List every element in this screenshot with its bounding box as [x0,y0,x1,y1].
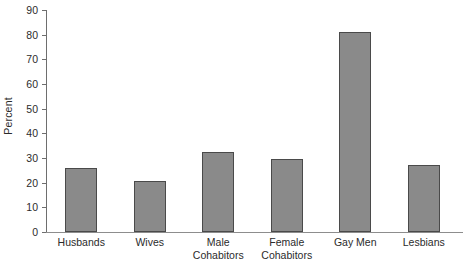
bar-slot [116,10,185,232]
y-axis-tick-label: 40 [26,128,38,139]
y-axis-tick-mark [42,84,46,85]
bar-series [47,10,458,232]
bar-chart-figure: Percent 0102030405060708090 HusbandsWive… [0,0,463,270]
x-axis-tick-label-line: Cohabitors [184,249,253,262]
bar [134,181,166,232]
x-axis-tick-label-line: Cohabitors [253,249,322,262]
y-axis-tick-label: 50 [26,103,38,114]
x-axis-tick-label: MaleCohabitors [184,236,253,270]
y-axis-tick-labels: 0102030405060708090 [16,0,42,232]
x-axis-tick-label: FemaleCohabitors [253,236,322,270]
y-axis-tick-mark [42,133,46,134]
y-axis-tick-label: 20 [26,177,38,188]
y-axis-tick-label: 70 [26,54,38,65]
x-axis-tick-label: Husbands [47,236,116,270]
y-axis-tick-label: 60 [26,79,38,90]
x-axis-tick-label-line: Female [269,236,304,248]
y-axis-tick-label: 30 [26,153,38,164]
y-axis-tick-mark [42,207,46,208]
bar [339,32,371,232]
bar [271,159,303,232]
x-axis-tick-label-line: Male [207,236,230,248]
y-axis-label-text: Percent [2,97,14,135]
y-axis-tick-mark [42,109,46,110]
y-axis-tick-label: 90 [26,5,38,16]
x-axis-tick-label: Gay Men [321,236,390,270]
y-axis-tick-label: 10 [26,202,38,213]
x-axis-tick-label: Wives [116,236,185,270]
y-axis-tick-label: 80 [26,29,38,40]
x-axis-tick-label-line: Wives [135,236,164,248]
bar-slot [47,10,116,232]
y-axis-tick-mark [42,183,46,184]
y-axis-tick-mark [42,59,46,60]
x-axis-tick-label: Lesbians [390,236,459,270]
y-axis-tick-mark [42,35,46,36]
bar [202,152,234,232]
bar [408,165,440,232]
x-axis-baseline [46,232,463,233]
y-axis-tick-mark [42,158,46,159]
x-axis-tick-labels: HusbandsWivesMaleCohabitorsFemaleCohabit… [47,236,458,270]
y-axis-tick-label: 0 [32,227,38,238]
bar-slot [184,10,253,232]
bar-slot [253,10,322,232]
x-axis-tick-label-line: Gay Men [334,236,377,248]
x-axis-tick-label-line: Lesbians [403,236,445,248]
bar [65,168,97,232]
y-axis-label: Percent [0,0,16,232]
bar-slot [321,10,390,232]
bar-slot [390,10,459,232]
plot-area [46,10,458,232]
x-axis-tick-label-line: Husbands [58,236,105,248]
y-axis-tick-mark [42,10,46,11]
